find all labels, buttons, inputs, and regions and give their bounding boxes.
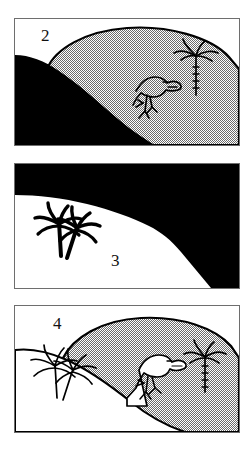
panel-3-artwork (15, 164, 239, 288)
panel-number-4: 4 (53, 315, 62, 332)
panel-3: 3 (14, 163, 240, 289)
panel-number-3: 3 (111, 252, 120, 269)
panel-number-2: 2 (41, 27, 50, 44)
panel-4: 4 (14, 305, 240, 433)
panel-2: 2 (14, 18, 240, 146)
figure-sheet: 2 (0, 0, 252, 450)
panel-4-artwork (15, 306, 239, 432)
